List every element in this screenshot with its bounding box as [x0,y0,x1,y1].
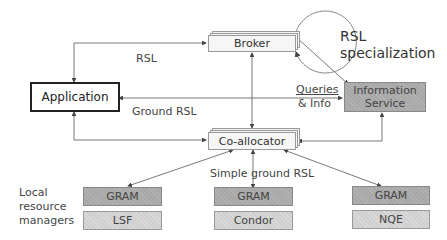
application-node: Application [30,82,120,112]
condor-node: Condor [214,211,293,230]
queries-label: Queries [296,83,338,96]
lsf-node: LSF [83,211,162,230]
condor-label: Condor [234,214,274,227]
application-label: Application [41,90,108,104]
info-service-line1: Information [353,84,417,97]
gram-condor-label: GRAM [237,190,270,203]
rsl-specialization-label-line1: RSL [340,28,366,45]
gram-lsf-label: GRAM [106,190,139,203]
local-resource-label-line2: resource [19,200,67,213]
gram-nqe-label: GRAM [375,189,408,202]
gram-nqe-node: GRAM [352,186,430,205]
nqe-node: NQE [352,210,430,229]
local-resource-label-line3: managers [19,214,74,227]
simple-ground-rsl-label: Simple ground RSL [210,167,314,180]
local-resource-label-line1: Local [19,186,48,199]
broker-node: Broker [208,35,296,52]
rsl-specialization-label-line2: specialization [340,45,435,62]
gram-lsf-node: GRAM [83,187,162,206]
and-info-label: & Info [298,97,331,110]
gram-condor-node: GRAM [214,187,293,206]
info-service-line2: Service [365,97,406,110]
ground-rsl-label: Ground RSL [132,105,197,118]
coallocator-node: Co-allocator [208,132,296,150]
nqe-label: NQE [379,213,403,226]
rsl-label: RSL [136,52,157,65]
coallocator-label: Co-allocator [219,135,286,148]
broker-label: Broker [234,37,270,50]
grid-architecture-diagram: Application Broker Co-allocator Informat… [0,0,447,240]
lsf-label: LSF [113,214,132,227]
information-service-node: Information Service [344,82,426,112]
